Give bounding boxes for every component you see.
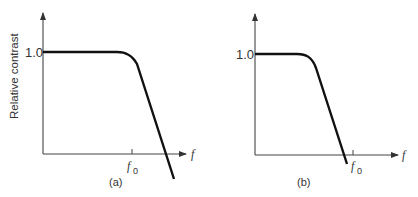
x-axis-label: f [191,147,196,161]
f0-label: f [127,159,132,173]
f0-label: f [351,159,356,173]
panel-b: 1.0 f f 0 (b) [236,14,407,188]
f0-subscript: 0 [357,166,362,176]
panel-caption: (b) [297,176,310,188]
figure-canvas: 1.0 Relative contrast f f 0 (a) 1.0 f f … [0,0,418,197]
response-curve [255,54,347,164]
response-curve [43,52,174,179]
x-axis-label: f [402,148,407,162]
f0-subscript: 0 [133,166,138,176]
panel-caption: (a) [109,176,122,188]
y-tick-label: 1.0 [236,47,254,62]
y-tick-label: 1.0 [25,45,43,60]
panel-a: 1.0 Relative contrast f f 0 (a) [8,13,196,188]
y-axis-label: Relative contrast [8,33,20,119]
